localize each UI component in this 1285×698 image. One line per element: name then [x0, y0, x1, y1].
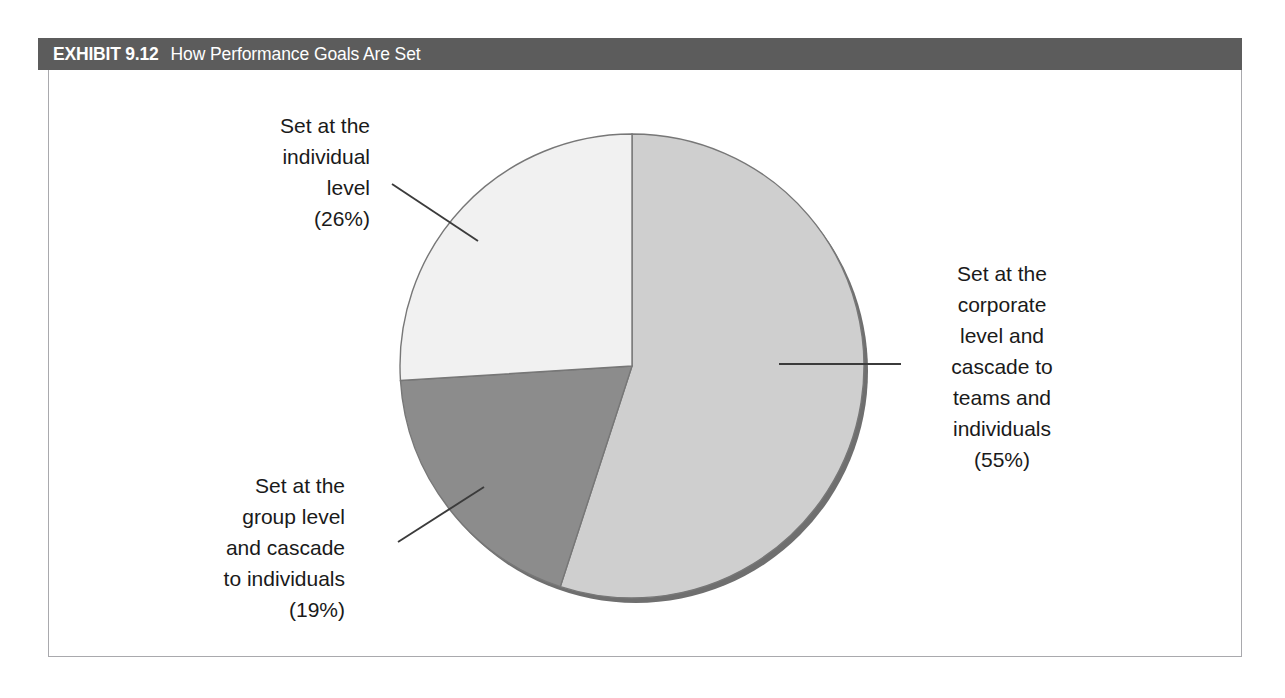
exhibit-title-label: How Performance Goals Are Set	[171, 44, 421, 65]
exhibit-header-bar: EXHIBIT 9.12 How Performance Goals Are S…	[38, 38, 1242, 70]
pie-label-group: Set at the group level and cascade to in…	[45, 470, 345, 625]
pie-label-corporate: Set at the corporate level and cascade t…	[907, 258, 1097, 475]
exhibit-number-label: EXHIBIT 9.12	[53, 44, 159, 65]
pie-label-individual: Set at the individual level (26%)	[110, 110, 370, 234]
